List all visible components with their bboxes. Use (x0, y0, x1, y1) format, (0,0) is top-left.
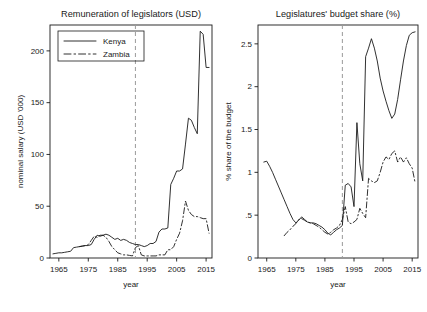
panel-right-ytick-label: 1 (248, 168, 253, 177)
panel-right-xaxis-label: year (330, 280, 346, 289)
panel-left-legend-box (58, 31, 144, 61)
panel-left-xtick-label: 1995 (138, 265, 156, 274)
panel-right-xtick-label: 1965 (258, 265, 276, 274)
panel-left-xtick-label: 1985 (109, 265, 127, 274)
panel-left: Remuneration of legislators (USD)0501001… (16, 9, 216, 289)
panel-right-xtick-label: 2015 (403, 265, 421, 274)
panel-left-xaxis-label: year (123, 280, 139, 289)
panel-right-ytick-label: 1.5 (241, 125, 253, 134)
panel-right-ytick-label: 2 (248, 82, 253, 91)
panel-left-plot-frame (50, 25, 212, 258)
panel-right-xtick-label: 1995 (345, 265, 363, 274)
panel-right: Legislatures' budget share (%)0.511.522.… (224, 9, 422, 289)
panel-right-ytick-label: 2.5 (241, 40, 253, 49)
panel-left-ytick-label: 0 (40, 254, 45, 263)
panel-left-series-kenya (53, 31, 209, 254)
panel-left-xtick-label: 1965 (50, 265, 68, 274)
panel-left-ytick-label: 200 (31, 47, 45, 56)
panel-right-ytick-label: .5 (245, 211, 252, 220)
panel-left-xtick-label: 2015 (197, 265, 215, 274)
panel-left-series-zambia (79, 201, 209, 256)
panel-left-legend-label-kenya: Kenya (103, 37, 126, 46)
chart-canvas: Remuneration of legislators (USD)0501001… (0, 0, 427, 312)
figure-container: Remuneration of legislators (USD)0501001… (0, 0, 427, 312)
panel-right-ytick-label: 0 (248, 254, 253, 263)
panel-left-yaxis-label: nominal salary (USD '000) (16, 95, 25, 188)
panel-right-plot-frame (258, 25, 418, 258)
panel-right-yaxis-label: % share of the budget (224, 102, 233, 181)
panel-left-xtick-label: 2005 (168, 265, 186, 274)
panel-left-xtick-label: 1975 (79, 265, 97, 274)
panel-right-title: Legislatures' budget share (%) (276, 9, 400, 19)
panel-right-xtick-label: 1975 (287, 265, 305, 274)
panel-left-title: Remuneration of legislators (USD) (61, 9, 201, 19)
panel-left-ytick-label: 150 (31, 98, 45, 107)
panel-right-xtick-label: 2005 (374, 265, 392, 274)
panel-left-legend-label-zambia: Zambia (103, 50, 130, 59)
panel-right-xtick-label: 1985 (316, 265, 334, 274)
panel-left-ytick-label: 50 (35, 202, 44, 211)
panel-left-ytick-label: 100 (31, 150, 45, 159)
panel-right-series-kenya (264, 32, 415, 235)
panel-right-series-zambia (284, 151, 415, 236)
